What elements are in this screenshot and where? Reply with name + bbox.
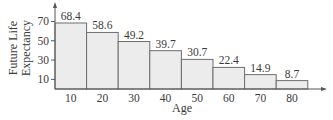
bar-age-10 [55, 23, 87, 89]
x-axis-title: Age [172, 101, 192, 115]
bar-age-70 [245, 75, 277, 89]
x-tick-label: 30 [128, 92, 140, 104]
x-axis-arrow-icon [321, 87, 327, 91]
x-tick-label: 20 [97, 92, 109, 104]
bar-age-60 [213, 67, 245, 89]
x-tick-label: 10 [65, 92, 77, 104]
x-tick-label: 70 [255, 92, 267, 104]
bar-age-30 [118, 42, 150, 89]
x-tick-label: 60 [223, 92, 235, 104]
x-tick-label: 50 [191, 92, 203, 104]
value-label: 68.4 [61, 10, 81, 22]
bar-age-40 [150, 51, 182, 89]
bar-age-80 [276, 81, 308, 89]
bars-group [55, 23, 308, 89]
y-tick-label: 50 [38, 35, 50, 47]
value-label: 58.6 [92, 19, 112, 31]
value-label: 14.9 [250, 62, 270, 74]
life-expectancy-bar-chart: 68.458.649.239.730.722.414.98.7 10203040… [0, 0, 333, 120]
y-ticks-group: 10305070 [38, 15, 56, 85]
value-label: 39.7 [156, 38, 176, 50]
y-tick-label: 70 [38, 15, 50, 27]
bar-age-50 [181, 59, 213, 89]
value-label: 8.7 [285, 68, 300, 80]
y-tick-label: 30 [38, 54, 50, 66]
bar-age-20 [87, 32, 119, 89]
y-tick-label: 10 [38, 73, 50, 85]
y-axis-title-line1: Future Life [6, 21, 20, 75]
value-label: 22.4 [219, 54, 239, 66]
y-axis-arrow-icon [53, 2, 57, 8]
x-tick-label: 80 [286, 92, 298, 104]
y-axis-title-line2: Expectancy [19, 20, 33, 76]
value-label: 30.7 [187, 46, 207, 58]
value-label: 49.2 [124, 29, 144, 41]
x-tick-label: 40 [160, 92, 172, 104]
